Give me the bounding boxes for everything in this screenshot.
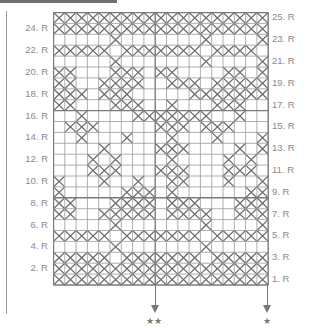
row-label-22: 22. R bbox=[25, 45, 48, 55]
center-repeat-arrowhead-icon bbox=[151, 305, 159, 313]
row-label-16: 16. R bbox=[25, 111, 48, 121]
row-label-2: 2. R bbox=[31, 263, 48, 273]
row-label-18: 18. R bbox=[25, 89, 48, 99]
row-label-20: 20. R bbox=[25, 67, 48, 77]
row-label-23: 23. R bbox=[272, 34, 295, 44]
row-label-14: 14. R bbox=[25, 132, 48, 142]
right-repeat-arrow-line bbox=[267, 284, 268, 306]
row-label-5: 5. R bbox=[272, 230, 289, 240]
row-label-13: 13. R bbox=[272, 143, 295, 153]
row-label-24: 24. R bbox=[25, 23, 48, 33]
row-label-21: 21. R bbox=[272, 56, 295, 66]
row-label-19: 19. R bbox=[272, 78, 295, 88]
row-label-17: 17. R bbox=[272, 100, 295, 110]
row-label-8: 8. R bbox=[31, 198, 48, 208]
row-label-3: 3. R bbox=[272, 252, 289, 262]
row-label-1: 1. R bbox=[272, 274, 289, 284]
stitch-chart-grid bbox=[53, 12, 269, 286]
single-star-marker: ★ bbox=[263, 316, 271, 326]
row-label-11: 11. R bbox=[272, 165, 294, 175]
center-repeat-arrow-line bbox=[155, 284, 156, 306]
right-repeat-arrowhead-icon bbox=[263, 305, 271, 313]
row-label-9: 9. R bbox=[272, 187, 289, 197]
row-label-10: 10. R bbox=[25, 176, 48, 186]
row-label-4: 4. R bbox=[31, 241, 48, 251]
row-label-25: 25. R bbox=[272, 12, 295, 22]
row-label-15: 15. R bbox=[272, 121, 295, 131]
row-label-12: 12. R bbox=[25, 154, 48, 164]
row-label-6: 6. R bbox=[31, 220, 48, 230]
header-bar bbox=[0, 0, 117, 3]
left-margin-rule bbox=[6, 11, 7, 314]
row-label-7: 7. R bbox=[272, 209, 289, 219]
double-star-marker: ★★ bbox=[146, 316, 162, 326]
